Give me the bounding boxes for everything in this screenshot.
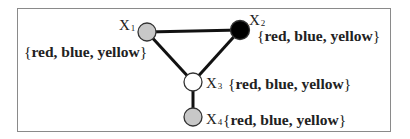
constraint-graph	[0, 0, 410, 139]
domain-x1: {red, blue, yellow}	[24, 44, 147, 60]
node-label-x1: X1	[119, 18, 135, 33]
node-x3	[184, 73, 202, 91]
domain-x4: {red, blue, yellow}	[223, 112, 346, 128]
node-label-x2: X2	[249, 13, 265, 28]
node-x4	[184, 108, 202, 126]
edge-x1-x3	[147, 32, 193, 82]
node-x1	[138, 23, 156, 41]
domain-x2: {red, blue, yellow}	[257, 28, 380, 44]
node-x2	[231, 21, 250, 40]
node-label-x4: X4	[206, 112, 222, 127]
edge-x1-x2	[147, 30, 240, 32]
domain-x3: {red, blue, yellow}	[228, 76, 351, 92]
node-label-x3: X3	[206, 76, 222, 91]
